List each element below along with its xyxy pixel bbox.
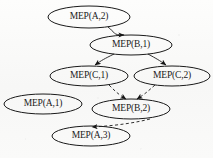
figure-caption-strip	[0, 147, 213, 158]
edge-a2-to-b1	[108, 27, 124, 35]
edge-c2-to-b2	[137, 85, 155, 99]
edge-layer	[92, 27, 166, 127]
node-ellipse-a2[interactable]	[48, 6, 130, 28]
node-ellipse-c1[interactable]	[50, 66, 128, 86]
node-ellipse-b1[interactable]	[90, 35, 172, 55]
node-ellipse-b2[interactable]	[92, 99, 170, 119]
node-ellipse-a1[interactable]	[4, 94, 82, 114]
figure-root: MEP(A,2) MEP(B,1) MEP(C,1) MEP(C,2) MEP(…	[0, 0, 213, 158]
node-layer	[4, 6, 210, 146]
graph-canvas	[0, 0, 213, 158]
node-ellipse-c2[interactable]	[134, 66, 210, 86]
edge-b1-to-c1	[95, 54, 114, 65]
edge-c1-to-b2	[109, 85, 126, 99]
node-ellipse-a3[interactable]	[52, 126, 130, 146]
edge-b1-to-c2	[148, 54, 166, 65]
